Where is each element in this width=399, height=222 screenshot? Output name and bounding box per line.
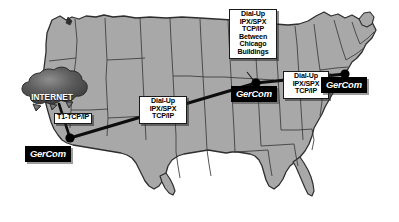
node-southwest: [65, 133, 74, 142]
callout-t1-line-0: T1-TCP/IP: [57, 114, 89, 122]
usa-map: [0, 0, 399, 222]
callout-chicago-line-5: Buildings: [233, 49, 273, 57]
site-label-east: GerCom: [321, 77, 367, 93]
callout-t1-link: T1-TCP/IP: [54, 113, 92, 124]
network-diagram: INTERNET T1-TCP/IP Dial-Up IPX/SPX TCP/I…: [0, 0, 399, 222]
callout-chicago-buildings: Dial-Up IPX/SPX TCP/IP Between Chicago B…: [229, 9, 277, 59]
callout-southwest-chicago-link: Dial-Up IPX/SPX TCP/IP: [139, 96, 187, 124]
callout-center-line-2: TCP/IP: [143, 113, 183, 121]
internet-cloud-label: INTERNET: [24, 93, 80, 102]
site-label-southwest: GerCom: [25, 146, 71, 162]
callout-east-line-2: TCP/IP: [287, 88, 325, 96]
site-label-chicago: GerCom: [231, 86, 277, 102]
